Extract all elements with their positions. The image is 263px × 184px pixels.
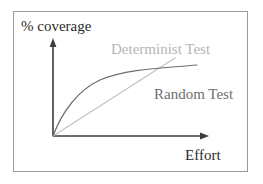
curve-label-random-test: Random Test [154,87,233,102]
y-axis [50,38,57,136]
x-axis-label: Effort [185,148,221,163]
curve-label-determinist-test: Determinist Test [111,42,210,57]
x-axis [53,133,209,140]
figure-root: % coverage Determinist Test Random Test … [0,0,263,184]
x-axis-arrow-icon [200,133,209,140]
y-axis-label: % coverage [21,19,91,34]
y-axis-arrow-icon [50,38,57,47]
